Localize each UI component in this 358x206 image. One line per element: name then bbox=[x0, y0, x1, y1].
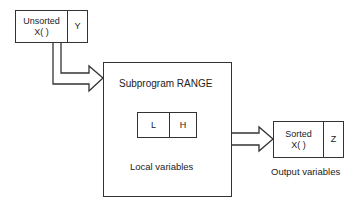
unsorted-label: Unsorted bbox=[23, 16, 60, 27]
output-variables-box: Sorted X( ) Z bbox=[273, 121, 344, 158]
local-variables-caption: Local variables bbox=[130, 161, 193, 172]
local-variables-box: L H bbox=[137, 112, 197, 138]
sorted-label: Sorted bbox=[285, 129, 312, 140]
h-variable-cell: H bbox=[170, 113, 196, 137]
sorted-array-cell: Sorted X( ) bbox=[274, 122, 323, 157]
input-variables-box: Unsorted X( ) Y bbox=[15, 10, 88, 43]
subprogram-range-box: Subprogram RANGE L H Local variables bbox=[103, 62, 232, 197]
input-arrow bbox=[53, 42, 103, 91]
array-x-label: X( ) bbox=[23, 27, 60, 38]
y-label: Y bbox=[74, 21, 80, 32]
output-arrow bbox=[231, 127, 273, 151]
array-x-label: X( ) bbox=[285, 140, 312, 151]
h-label: H bbox=[180, 120, 187, 131]
l-label: L bbox=[151, 120, 156, 131]
subprogram-title: Subprogram RANGE bbox=[119, 78, 212, 89]
unsorted-array-cell: Unsorted X( ) bbox=[16, 11, 67, 42]
z-label: Z bbox=[331, 134, 337, 145]
y-variable-cell: Y bbox=[68, 11, 87, 42]
l-variable-cell: L bbox=[138, 113, 169, 137]
output-variables-caption: Output variables bbox=[271, 166, 340, 177]
z-variable-cell: Z bbox=[324, 122, 343, 157]
